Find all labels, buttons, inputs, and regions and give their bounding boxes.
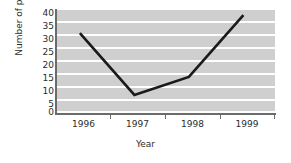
y-tick-label: 15 [43,74,54,83]
x-tick-label-1999: 1999 [220,119,274,129]
x-axis-tick [274,113,275,119]
x-tick-label-1996: 1996 [57,119,110,129]
plot-area [57,10,275,113]
series-line [57,10,275,113]
x-tick-label-1997: 1997 [110,119,165,129]
y-tick-label: 10 [43,87,54,96]
y-tick-label: 25 [43,48,54,57]
x-tick-label-1998: 1998 [165,119,220,129]
y-tick-label: 30 [43,35,54,44]
line-chart: Number of pupils 40 35 30 25 20 15 10 5 … [0,0,291,163]
y-axis-line [55,9,57,114]
y-tick-label: 35 [43,22,54,31]
x-axis-title: Year [0,139,291,149]
y-axis-title: Number of pupils [14,0,24,67]
y-tick-label: 40 [43,9,54,18]
y-tick-label: 0 [48,108,54,117]
y-tick-label: 20 [43,61,54,70]
